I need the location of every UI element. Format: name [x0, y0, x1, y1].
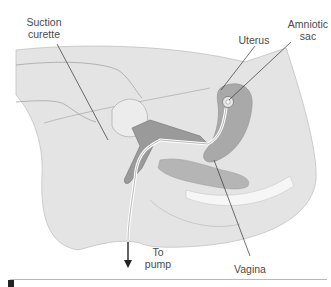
label-uterus: Uterus: [232, 34, 276, 46]
suction-curettage-illustration: [0, 0, 331, 287]
pump-arrow-head-icon: [124, 260, 132, 268]
label-suction-curette: Suction curette: [17, 16, 71, 40]
label-amniotic-sac: Amniotic sac: [282, 18, 331, 42]
label-to-pump: To pump: [138, 246, 178, 270]
body-silhouette: [16, 46, 316, 250]
caption-marker: [8, 280, 14, 287]
embryo: [226, 100, 230, 104]
label-vagina: Vagina: [225, 263, 275, 275]
caption-divider: [10, 279, 327, 280]
